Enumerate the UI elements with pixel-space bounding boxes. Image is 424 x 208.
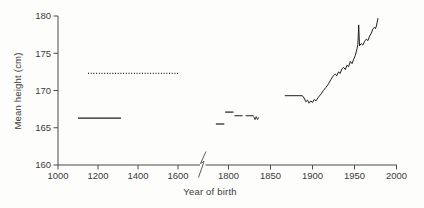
x-tick-label: 1950 [344,170,365,181]
y-tick-label: 180 [35,10,51,21]
series-modern-series [285,18,378,103]
y-tick-label: 170 [35,85,51,96]
x-tick-label: 1200 [87,170,108,181]
y-tick-label: 175 [35,48,51,59]
x-tick-label: 1800 [218,170,239,181]
x-tick-label: 1600 [167,170,188,181]
y-tick-label: 165 [35,122,51,133]
x-axis-title: Year of birth [183,186,236,197]
plot-canvas: 1601651701751801000120014001600180018501… [0,0,424,208]
x-axis-break-icon [199,152,207,178]
x-tick-label: 2000 [386,170,407,181]
y-axis-title: Mean height (cm) [12,52,23,129]
x-tick-label: 1900 [302,170,323,181]
series-1830s-zigzag [254,117,259,120]
y-tick-label: 160 [35,159,51,170]
x-tick-label: 1850 [260,170,281,181]
mean-height-by-birth-year-chart: 1601651701751801000120014001600180018501… [0,0,424,208]
x-tick-label: 1400 [127,170,148,181]
x-tick-label: 1000 [47,170,68,181]
